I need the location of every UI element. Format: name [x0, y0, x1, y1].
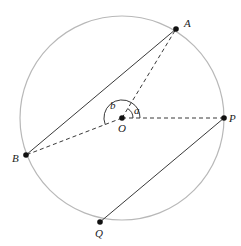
point-label-o: O: [118, 122, 126, 134]
angle-label-a: a: [134, 104, 140, 116]
angle-label-b: b: [110, 99, 116, 111]
radius-ob: [26, 118, 122, 155]
point-label-p: P: [228, 112, 236, 124]
point-label-q: Q: [95, 227, 103, 239]
point-q: [97, 219, 103, 225]
point-a: [173, 26, 179, 32]
point-o: [119, 115, 125, 121]
circle-diagram: AOPBQab: [0, 0, 241, 246]
point-b: [23, 152, 29, 158]
radius-oa: [122, 29, 176, 118]
point-p: [221, 115, 227, 121]
point-label-a: A: [183, 17, 191, 29]
angle-arc-b: [104, 100, 131, 125]
angle-arc-a: [128, 109, 133, 118]
point-label-b: B: [12, 152, 19, 164]
